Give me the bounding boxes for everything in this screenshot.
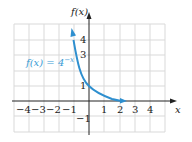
y-tick-1: 1 <box>80 81 86 91</box>
y-tick-3: 3 <box>80 50 86 60</box>
function-curve <box>71 28 128 104</box>
y-tick-4: 4 <box>80 35 86 45</box>
function-exponent: −x <box>64 56 74 64</box>
x-tick-neg1: −1 <box>62 105 77 115</box>
axes <box>12 12 177 135</box>
x-tick-4: 4 <box>147 105 153 115</box>
function-base: f(x) = 4 <box>26 57 64 68</box>
x-tick-3: 3 <box>132 105 138 115</box>
function-label: f(x) = 4−x <box>26 57 74 68</box>
chart-canvas <box>0 0 192 142</box>
x-axis-label: x <box>175 105 181 115</box>
x-tick-neg4: −4 <box>16 105 31 115</box>
x-tick-2: 2 <box>117 105 123 115</box>
x-tick-1: 1 <box>101 105 107 115</box>
y-tick-neg1: −1 <box>76 114 91 124</box>
x-tick-neg2: −2 <box>46 105 61 115</box>
x-tick-neg3: −3 <box>31 105 46 115</box>
y-axis-label: f(x) <box>71 7 88 17</box>
